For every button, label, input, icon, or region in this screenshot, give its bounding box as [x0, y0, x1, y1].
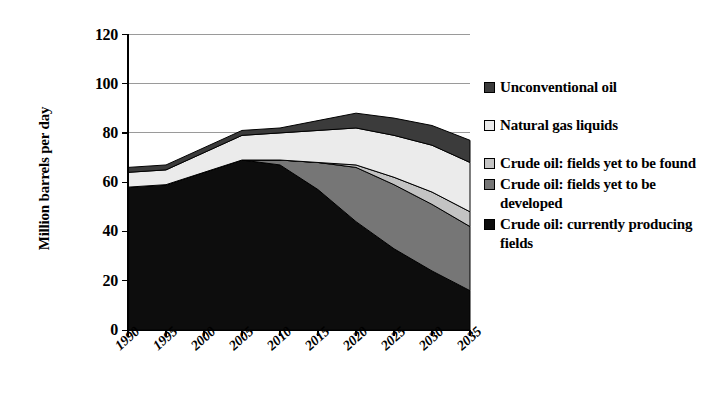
- chart-legend: Unconventional oil Natural gas liquids C…: [484, 78, 710, 256]
- legend-swatch-fields-yet-to-be-developed: [484, 179, 495, 190]
- chart-figure: Million barrels per day 120 100 80 60 40…: [0, 0, 713, 413]
- legend-label-fields-yet-to-be-developed: Crude oil: fields yet to be developed: [500, 175, 710, 213]
- legend-item-natural-gas-liquids[interactable]: Natural gas liquids: [484, 116, 710, 135]
- y-axis-ticks: [122, 34, 128, 330]
- legend-item-unconventional-oil[interactable]: Unconventional oil: [484, 78, 710, 97]
- legend-label-natural-gas-liquids: Natural gas liquids: [500, 116, 618, 135]
- legend-swatch-unconventional-oil: [484, 82, 495, 93]
- legend-swatch-natural-gas-liquids: [484, 120, 495, 131]
- stacked-areas: [128, 113, 470, 330]
- legend-swatch-currently-producing-fields: [484, 219, 495, 230]
- legend-label-currently-producing-fields: Crude oil: currently producing fields: [500, 215, 710, 253]
- legend-label-fields-yet-to-be-found: Crude oil: fields yet to be found: [500, 154, 696, 173]
- legend-item-currently-producing-fields[interactable]: Crude oil: currently producing fields: [484, 215, 710, 253]
- legend-item-fields-yet-to-be-found[interactable]: Crude oil: fields yet to be found: [484, 154, 710, 173]
- legend-swatch-fields-yet-to-be-found: [484, 158, 495, 169]
- legend-label-unconventional-oil: Unconventional oil: [500, 78, 617, 97]
- legend-item-fields-yet-to-be-developed[interactable]: Crude oil: fields yet to be developed: [484, 175, 710, 213]
